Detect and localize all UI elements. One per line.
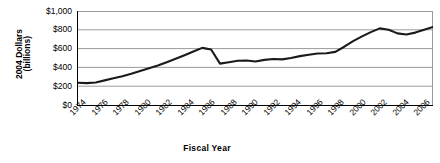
chart-container: 2004 Dollars (billions) $0$200$400$600$8… <box>0 0 440 163</box>
y-tick-label-1000: $1,000 <box>46 7 72 16</box>
x-axis-tick-labels: 1974197619781980198219841986198819901992… <box>0 105 440 145</box>
data-series-line <box>78 27 433 83</box>
y-axis-tick-labels: $0$200$400$600$800$1,000 <box>22 0 74 112</box>
plot-area <box>77 11 433 106</box>
x-axis-title: Fiscal Year <box>0 143 440 153</box>
y-tick-label-800: $800 <box>53 25 72 34</box>
gridlines <box>78 11 433 105</box>
y-tick-label-200: $200 <box>53 82 72 91</box>
y-tick-label-600: $600 <box>53 44 72 53</box>
x-axis-tick-marks <box>78 11 433 105</box>
chart-plot-svg <box>78 11 433 105</box>
y-tick-label-400: $400 <box>53 63 72 72</box>
